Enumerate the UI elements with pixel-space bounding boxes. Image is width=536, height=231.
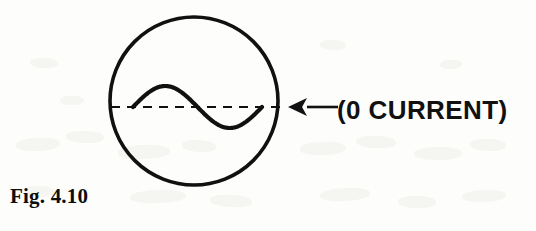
figure-caption: Fig. 4.10 <box>10 186 88 207</box>
annotation-arrow-head-icon <box>288 98 307 116</box>
zero-current-annotation-label: (0 CURRENT) <box>337 97 508 123</box>
figure-container: (0 CURRENT) Fig. 4.10 <box>0 0 536 231</box>
